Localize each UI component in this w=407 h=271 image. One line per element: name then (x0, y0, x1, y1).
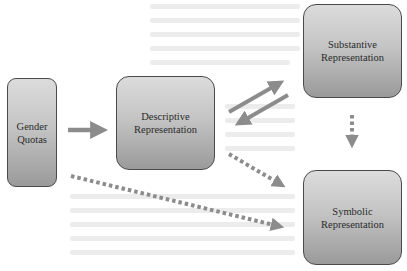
node-substantive-representation: Substantive Representation (303, 4, 402, 98)
node-descriptive-representation: Descriptive Representation (116, 76, 215, 170)
node-symbolic-representation: Symbolic Representation (303, 170, 402, 265)
node-label: Symbolic Representation (321, 205, 384, 231)
arrow-descriptive-to-substantive (229, 84, 278, 112)
arrow-gender-to-symbolic (71, 176, 278, 226)
arrow-descriptive-to-symbolic (229, 154, 280, 184)
node-label: Substantive Representation (321, 38, 384, 64)
node-label: Gender Quotas (17, 120, 48, 146)
node-gender-quotas: Gender Quotas (7, 78, 57, 187)
node-label: Descriptive Representation (134, 110, 197, 136)
